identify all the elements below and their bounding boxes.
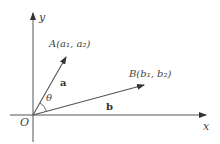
vector-diagram: y x O A(a₁, a₂) a θ B(b₁, b₂) b	[0, 0, 220, 144]
x-axis-label: x	[203, 120, 210, 133]
theta-label: θ	[46, 92, 52, 103]
vector-a-label: a	[60, 77, 67, 88]
angle-arc	[40, 103, 47, 112]
y-axis-label: y	[38, 11, 46, 24]
vector-b-label: b	[106, 101, 113, 112]
point-b-label: B(b₁, b₂)	[128, 68, 171, 79]
point-a-label: A(a₁, a₂)	[48, 38, 90, 49]
origin-label: O	[20, 116, 29, 129]
